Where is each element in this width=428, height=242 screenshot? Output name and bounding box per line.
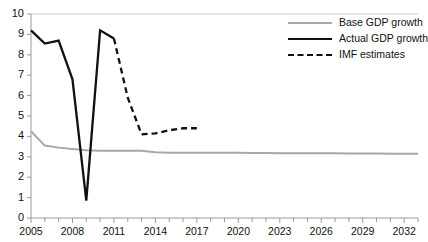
y-tick-label-3: 3 [0, 151, 24, 162]
x-tick-label-2029: 2029 [341, 226, 385, 237]
legend-label-base-gdp-growth: Base GDP growth [339, 17, 423, 28]
x-axis-ticks [31, 218, 418, 223]
dashed-black-line-icon [288, 48, 332, 60]
y-tick-label-1: 1 [0, 192, 24, 203]
chart-legend: Base GDP growth Actual GDP growth IMF es… [288, 14, 428, 62]
x-tick-label-2032: 2032 [382, 226, 426, 237]
x-tick-label-2017: 2017 [175, 226, 219, 237]
y-tick-label-9: 9 [0, 28, 24, 39]
legend-label-imf-estimates: IMF estimates [339, 49, 405, 60]
solid-gray-line-icon [288, 16, 332, 28]
x-tick-label-2008: 2008 [50, 226, 94, 237]
series-line-base-gdp-growth [31, 131, 418, 153]
y-tick-label-0: 0 [0, 212, 24, 223]
series-line-imf-estimates [114, 38, 197, 134]
x-tick-label-2005: 2005 [9, 226, 53, 237]
legend-item-base-gdp-growth: Base GDP growth [288, 14, 428, 30]
y-tick-label-8: 8 [0, 49, 24, 60]
solid-black-line-icon [288, 32, 332, 44]
y-tick-label-10: 10 [0, 8, 24, 19]
y-tick-label-6: 6 [0, 90, 24, 101]
legend-item-actual-gdp-growth: Actual GDP growth [288, 30, 428, 46]
x-tick-label-2026: 2026 [299, 226, 343, 237]
y-tick-label-7: 7 [0, 69, 24, 80]
x-tick-label-2014: 2014 [133, 226, 177, 237]
x-tick-label-2011: 2011 [92, 226, 136, 237]
y-tick-label-4: 4 [0, 130, 24, 141]
y-tick-label-2: 2 [0, 171, 24, 182]
series-line-actual-gdp-growth [31, 30, 114, 200]
legend-label-actual-gdp-growth: Actual GDP growth [339, 33, 428, 44]
y-axis-ticks [27, 14, 31, 218]
x-tick-label-2023: 2023 [258, 226, 302, 237]
legend-item-imf-estimates: IMF estimates [288, 46, 428, 62]
y-tick-label-5: 5 [0, 110, 24, 121]
x-tick-label-2020: 2020 [216, 226, 260, 237]
